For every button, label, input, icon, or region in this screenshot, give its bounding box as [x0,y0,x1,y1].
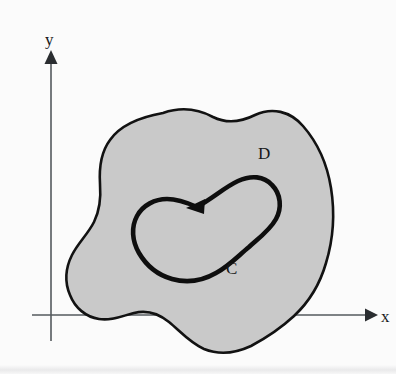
y-axis-arrowhead [45,50,58,64]
region-label-d: D [258,144,270,163]
region-d-shape [66,109,333,352]
curve-label-c: C [226,259,237,278]
y-axis [45,50,58,341]
y-axis-label: y [45,30,54,49]
x-axis-label: x [381,307,390,326]
region-diagram-svg: D C x y [0,0,396,374]
x-axis-arrowhead [365,309,378,322]
figure-container: D C x y [0,0,396,374]
